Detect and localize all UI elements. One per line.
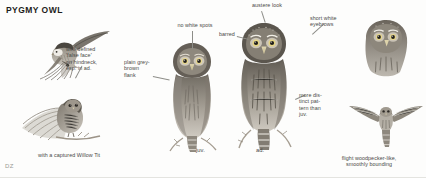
caption-short-eyebrows: short white eyebrows	[310, 15, 356, 28]
age-label-adult: ad.	[256, 147, 276, 153]
caption-false-face: well-defined 'false face' on hindneck, e…	[66, 46, 118, 72]
figure-owl-perched-lower-left	[20, 88, 116, 146]
figure-owl-adult-front	[233, 22, 295, 150]
caption-flight: flight woodpecker-like, smoothly boundin…	[320, 155, 418, 168]
caption-more-distinct: more dis- tinct pat- tern than juv.	[299, 92, 335, 118]
artist-signature: DZ	[5, 163, 14, 169]
page-title: PYGMY OWL	[6, 5, 63, 15]
field-guide-plate: PYGMY OWL	[0, 0, 426, 178]
caption-willow-tit: with a captured Willow Tit	[38, 152, 148, 158]
caption-plain-flank: plain grey- brown flank	[124, 59, 158, 78]
age-label-juvenile: juv.	[196, 147, 216, 153]
figure-owl-juvenile-front	[163, 42, 221, 152]
figure-owl-flight-from-below	[348, 92, 424, 148]
caption-no-white-spots: no white spots	[166, 22, 224, 28]
caption-barred: barred	[219, 31, 245, 37]
leader-line-austere-look	[261, 11, 266, 23]
caption-austere-look: austere look	[238, 2, 296, 8]
leader-line-no-white-spots	[192, 31, 193, 49]
bottom-rule	[0, 177, 426, 178]
figure-owl-adult-head-study	[356, 18, 418, 80]
